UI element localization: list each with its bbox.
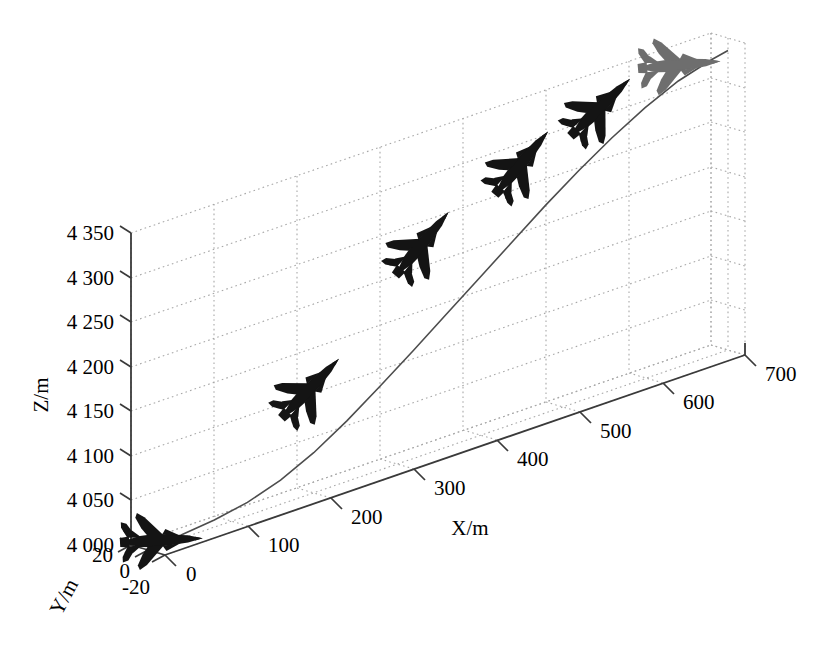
z-axis-title: Z/m xyxy=(29,378,53,413)
aircraft-5-icon xyxy=(551,58,650,157)
plot-canvas: 4 350 4 300 4 250 4 200 4 150 4 100 4 05… xyxy=(0,0,829,659)
z-tick-label-4200: 4 200 xyxy=(67,355,114,379)
x-tick-label-400: 400 xyxy=(517,447,549,471)
x-tick-label-200: 200 xyxy=(351,505,383,529)
y-tick-label-20: 20 xyxy=(92,543,113,567)
z-tick-label-4300: 4 300 xyxy=(67,266,114,290)
z-tick-label-4350: 4 350 xyxy=(67,221,114,245)
aircraft-3-icon xyxy=(374,194,471,294)
z-tick-label-4100: 4 100 xyxy=(67,444,114,468)
x-tick-label-0: 0 xyxy=(186,562,197,586)
z-tick-label-4250: 4 250 xyxy=(67,310,114,334)
axis-lines xyxy=(131,233,745,555)
figure-3d-trajectory-plot: 4 350 4 300 4 250 4 200 4 150 4 100 4 05… xyxy=(0,0,829,659)
back-wall-grid xyxy=(131,33,711,545)
x-tick-label-600: 600 xyxy=(683,390,715,414)
x-tick-label-100: 100 xyxy=(268,533,300,557)
aircraft-4-icon xyxy=(473,113,570,213)
y-tick-label-minus20: -20 xyxy=(122,575,150,599)
x-axis-title: X/m xyxy=(451,516,488,540)
z-axis-ticks xyxy=(120,226,131,545)
x-tick-label-500: 500 xyxy=(600,419,632,443)
x-tick-label-300: 300 xyxy=(434,476,466,500)
floor-grid xyxy=(131,345,745,555)
y-axis-title: Y/m xyxy=(44,575,83,619)
z-tick-label-4150: 4 150 xyxy=(67,399,114,423)
aircraft-6-icon xyxy=(635,33,722,97)
right-wall-grid xyxy=(711,33,745,355)
x-tick-label-700: 700 xyxy=(765,362,797,386)
z-tick-label-4050: 4 050 xyxy=(67,488,114,512)
trajectory-curve xyxy=(148,50,728,548)
aircraft-markers xyxy=(119,33,723,571)
